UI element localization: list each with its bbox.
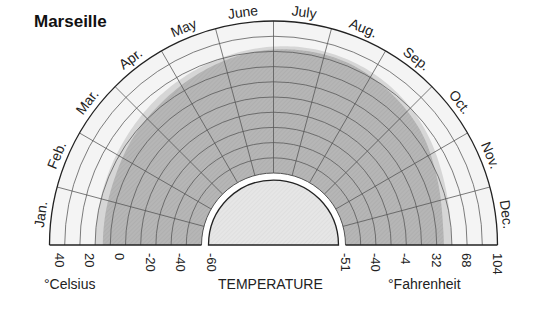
- celsius-tick-label: -20: [143, 253, 158, 272]
- temperature-axis-label: TEMPERATURE: [218, 276, 323, 292]
- celsius-ticks: 40200-20-40-60: [52, 253, 219, 272]
- month-label: June: [227, 2, 259, 22]
- fahrenheit-tick-label: -40: [368, 253, 383, 272]
- celsius-tick-label: -40: [173, 253, 188, 272]
- radial-temperature-chart: Marseille °Celsius TEMPERATURE °Fahrenhe…: [0, 0, 538, 315]
- fahrenheit-tick-label: -51: [338, 253, 353, 272]
- celsius-tick-label: 20: [82, 253, 97, 267]
- fahrenheit-tick-label: 32: [429, 253, 444, 267]
- fahrenheit-axis-label: °Fahrenheit: [388, 276, 461, 292]
- month-label: Dec.: [497, 199, 517, 230]
- fahrenheit-tick-label: 68: [459, 253, 474, 267]
- celsius-tick-label: -60: [204, 253, 219, 272]
- celsius-axis-label: °Celsius: [44, 276, 96, 292]
- plot-area: [50, 21, 498, 245]
- celsius-tick-label: 40: [52, 253, 67, 267]
- month-label: Jan.: [31, 200, 50, 228]
- month-label: July: [291, 2, 318, 21]
- celsius-tick-label: 0: [112, 253, 127, 260]
- fahrenheit-ticks: -51-40-43268104: [338, 253, 505, 275]
- fahrenheit-tick-label: -4: [398, 253, 413, 265]
- chart-title: Marseille: [34, 12, 107, 31]
- fahrenheit-tick-label: 104: [490, 253, 505, 275]
